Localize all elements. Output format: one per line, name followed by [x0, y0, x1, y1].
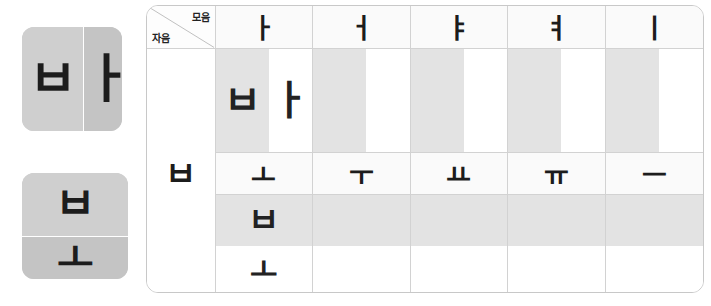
syllable-cell-bo-consonant: ㅂ	[216, 195, 313, 246]
consonant-rail-b: ㅂ	[147, 48, 215, 293]
vowel-header-ya: ㅑ	[410, 6, 508, 48]
syllable-cell-bo-vowel: ㅗ	[216, 246, 313, 293]
tile-ba-vowel-pane: ㅏ	[84, 27, 122, 131]
syllable-cell-beo-vowel	[366, 49, 409, 152]
syllable-tile-ba[interactable]: ㅂ ㅏ	[22, 27, 122, 131]
consonant-axis-label: 자음	[152, 30, 170, 45]
table-row-vertical-syllables: ㅂ ㅂ ㅏ	[147, 48, 703, 152]
syllable-cell-bya-consonant	[411, 49, 464, 152]
tile-ba-vowel-glyph: ㅏ	[84, 53, 122, 105]
syllable-cell-bya[interactable]	[410, 48, 508, 152]
tile-bo-consonant-pane: ㅂ	[22, 173, 128, 237]
syllable-cell-byeo[interactable]	[508, 48, 606, 152]
vowel-header-eo: ㅓ	[313, 6, 411, 48]
syllable-cell-beu-vowel	[606, 246, 703, 293]
syllable-cell-beo-consonant	[313, 49, 366, 152]
syllable-cell-byeo-consonant	[508, 49, 561, 152]
vowel-header-i: ㅣ	[605, 6, 703, 48]
vowel-header-yeo: ㅕ	[508, 6, 606, 48]
syllable-cell-byu[interactable]	[508, 194, 606, 293]
syllable-cell-byeo-vowel	[561, 49, 604, 152]
table-row-horizontal-syllables: ㅂ ㅗ	[147, 194, 703, 293]
syllable-cell-beo[interactable]	[313, 48, 411, 152]
vowel-header-yo: ㅛ	[410, 152, 508, 194]
syllable-cell-bu-consonant	[313, 195, 410, 246]
tile-bo-vowel-glyph: ㅗ	[57, 238, 94, 278]
syllable-cell-byo-consonant	[411, 195, 508, 246]
tile-bo-vowel-pane: ㅗ	[22, 237, 128, 279]
tile-ba-consonant-pane: ㅂ	[22, 27, 84, 131]
syllable-cell-ba[interactable]: ㅂ ㅏ	[215, 48, 313, 152]
syllable-cell-ba-consonant: ㅂ	[216, 49, 269, 152]
hangul-syllable-chart: ㅂ ㅏ ㅂ ㅗ 모음 자음	[0, 0, 711, 306]
table-header-row-horizontal-vowels: ㅗ ㅜ ㅛ ㅠ ㅡ	[147, 152, 703, 194]
syllable-cell-ba-vowel: ㅏ	[269, 49, 312, 152]
syllable-cell-bya-vowel	[464, 49, 507, 152]
combination-table: 모음 자음 ㅏ ㅓ ㅑ ㅕ ㅣ ㅂ ㅂ ㅏ	[146, 5, 704, 293]
vowel-header-eu: ㅡ	[605, 152, 703, 194]
syllable-cell-byu-vowel	[508, 246, 605, 293]
axis-corner-header: 모음 자음	[147, 6, 215, 48]
syllable-tile-bo[interactable]: ㅂ ㅗ	[22, 173, 128, 279]
tile-bo-consonant-glyph: ㅂ	[55, 182, 95, 226]
syllable-cell-byo[interactable]	[410, 194, 508, 293]
syllable-cell-bu-vowel	[313, 246, 410, 293]
table-header-row-vertical-vowels: 모음 자음 ㅏ ㅓ ㅑ ㅕ ㅣ	[147, 6, 703, 48]
syllable-cell-beu-consonant	[606, 195, 703, 246]
syllable-cell-beu[interactable]	[605, 194, 703, 293]
tile-stack: ㅂ ㅏ ㅂ ㅗ	[0, 0, 140, 306]
syllable-cell-bi[interactable]	[605, 48, 703, 152]
syllable-cell-bi-vowel	[659, 49, 703, 152]
syllable-cell-bi-consonant	[606, 49, 659, 152]
tile-ba-consonant-glyph: ㅂ	[29, 53, 77, 105]
syllable-cell-bo[interactable]: ㅂ ㅗ	[215, 194, 313, 293]
syllable-cell-bu[interactable]	[313, 194, 411, 293]
vowel-axis-label: 모음	[192, 9, 210, 24]
syllable-cell-byo-vowel	[411, 246, 508, 293]
vowel-header-o: ㅗ	[215, 152, 313, 194]
vowel-header-a: ㅏ	[215, 6, 313, 48]
vowel-header-yu: ㅠ	[508, 152, 606, 194]
syllable-cell-byu-consonant	[508, 195, 605, 246]
vowel-header-u: ㅜ	[313, 152, 411, 194]
